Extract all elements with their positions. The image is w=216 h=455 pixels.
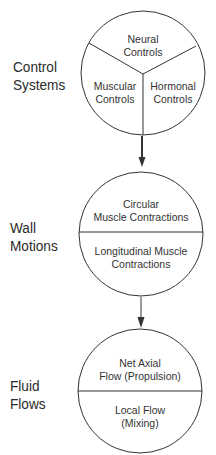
segment-text: Circular	[91, 198, 191, 211]
segment-text: Longitudinal Muscle	[88, 245, 194, 258]
segment-longitudinal-muscle-contractions: Longitudinal Muscle Contractions	[88, 245, 194, 271]
segment-text: Muscular	[89, 80, 141, 93]
label-line: Motions	[10, 237, 58, 255]
segment-text: Controls	[113, 46, 173, 59]
segment-text: Net Axial	[92, 357, 188, 370]
stage-label-wall-motions: Wall Motions	[10, 219, 58, 255]
control-systems-circle	[81, 11, 205, 135]
wall-motions-circle	[79, 172, 203, 296]
label-line: Systems	[13, 76, 65, 94]
segment-local-flow: Local Flow (Mixing)	[100, 404, 180, 430]
segment-net-axial-flow: Net Axial Flow (Propulsion)	[92, 357, 188, 383]
segment-text: Neural	[113, 33, 173, 46]
segment-text: Controls	[144, 93, 202, 106]
segment-text: (Mixing)	[100, 417, 180, 430]
segment-neural-controls: Neural Controls	[113, 33, 173, 59]
segment-text: Muscle Contractions	[91, 211, 191, 224]
segment-circular-muscle-contractions: Circular Muscle Contractions	[91, 198, 191, 224]
label-line: Wall	[10, 219, 58, 237]
segment-text: Controls	[89, 93, 141, 106]
stage-label-control-systems: Control Systems	[13, 58, 65, 94]
segment-text: Local Flow	[100, 404, 180, 417]
arrow-down-icon	[138, 297, 145, 328]
fluid-flows-circle	[78, 329, 202, 453]
segment-text: Contractions	[88, 258, 194, 271]
label-line: Flows	[10, 395, 46, 413]
label-line: Fluid	[10, 377, 46, 395]
segment-text: Flow (Propulsion)	[92, 370, 188, 383]
segment-hormonal-controls: Hormonal Controls	[144, 80, 202, 106]
label-line: Control	[13, 58, 65, 76]
arrow-down-icon	[139, 136, 146, 167]
stage-label-fluid-flows: Fluid Flows	[10, 377, 46, 413]
segment-text: Hormonal	[144, 80, 202, 93]
segment-muscular-controls: Muscular Controls	[89, 80, 141, 106]
